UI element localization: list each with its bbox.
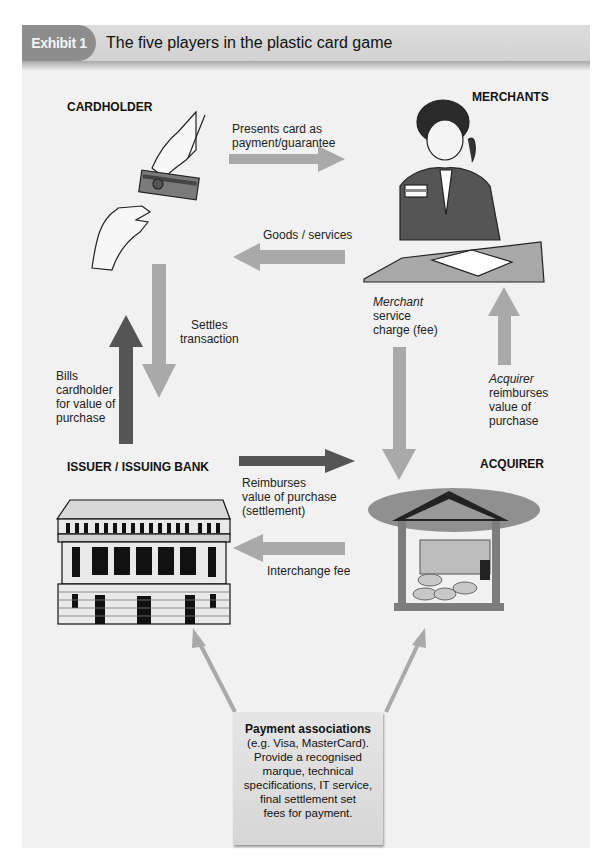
acquirer-money-illustration bbox=[368, 488, 540, 611]
text-goods-services: Goods / services bbox=[263, 228, 352, 242]
merchant-phone-illustration bbox=[364, 100, 544, 282]
label-cardholder: CARDHOLDER bbox=[67, 100, 152, 114]
label-acquirer: ACQUIRER bbox=[480, 457, 544, 471]
arrow-to-acquirer bbox=[386, 628, 426, 712]
label-issuer: ISSUER / ISSUING BANK bbox=[67, 460, 209, 474]
payment-associations-title: Payment associations bbox=[233, 722, 383, 736]
bank-building-illustration bbox=[57, 500, 230, 624]
arrow-reimburses-settlement bbox=[239, 449, 355, 473]
arrow-to-issuer bbox=[192, 628, 235, 712]
arrow-acquirer-reimburses bbox=[488, 287, 520, 365]
text-acquirer-reimburses: Acquirer reimburses value of purchase bbox=[489, 372, 548, 428]
label-merchants: MERCHANTS bbox=[472, 90, 549, 104]
hands-card-illustration bbox=[92, 112, 205, 270]
payment-associations-box: Payment associations (e.g. Visa, MasterC… bbox=[233, 712, 383, 845]
arrow-goods-services bbox=[233, 243, 345, 271]
text-bills: Bills cardholder for value of purchase bbox=[56, 369, 115, 425]
arrow-merchant-fee bbox=[382, 347, 416, 480]
text-interchange-fee: Interchange fee bbox=[267, 564, 350, 578]
arrow-interchange-fee bbox=[233, 534, 345, 562]
text-presents-card: Presents card as payment/guarantee bbox=[232, 122, 335, 150]
text-merchant-fee: Merchant service charge (fee) bbox=[373, 295, 438, 337]
arrow-settles-transaction bbox=[142, 264, 176, 398]
text-reimburses-settlement: Reimburses value of purchase (settlement… bbox=[242, 476, 337, 518]
text-settles: Settles transaction bbox=[180, 318, 239, 346]
